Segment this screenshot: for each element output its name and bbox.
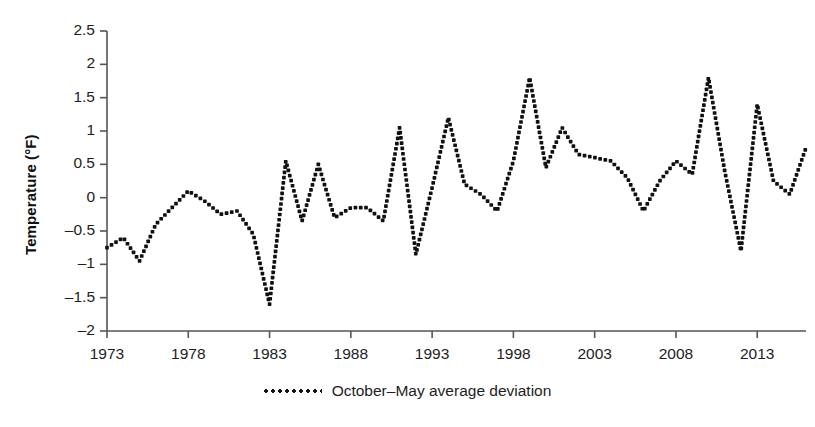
series-dot (185, 190, 189, 194)
series-dot (730, 205, 734, 209)
series-dot (105, 246, 109, 250)
y-tick-label: 2 (35, 54, 95, 72)
data-series-group (105, 77, 807, 306)
series-dot (215, 210, 219, 214)
series-dot (433, 176, 437, 180)
series-dot (458, 164, 462, 168)
series-dot (759, 121, 763, 125)
series-dot (692, 161, 696, 165)
series-dot (511, 162, 515, 166)
series-dot (721, 158, 725, 162)
y-tick-label: 1 (35, 121, 95, 139)
series-dot (435, 166, 439, 170)
series-dot (199, 197, 203, 201)
series-dot (514, 146, 518, 150)
series-dot (396, 136, 400, 140)
series-dot (523, 99, 527, 103)
series-dot (779, 185, 783, 189)
series-dot (308, 193, 312, 197)
series-dot (148, 235, 152, 239)
series-dot (795, 173, 799, 177)
series-dot (306, 198, 310, 202)
series-dot (656, 183, 660, 187)
x-tick-label: 2008 (636, 345, 716, 363)
series-dot (211, 206, 215, 210)
series-dot (703, 98, 707, 102)
x-axis-ticks (107, 331, 757, 338)
series-dot (453, 143, 457, 147)
series-dot (745, 199, 749, 203)
series-dot (532, 99, 536, 103)
series-dot (405, 183, 409, 187)
series-dot (311, 183, 315, 187)
series-dot (516, 136, 520, 140)
series-dot (735, 231, 739, 235)
series-dot (507, 172, 511, 176)
series-dot (546, 160, 550, 164)
series-dot (402, 162, 406, 166)
series-dot (381, 219, 385, 223)
series-dot (276, 234, 280, 238)
series-dot (746, 183, 750, 187)
series-dot (672, 162, 676, 166)
series-dot (436, 160, 440, 164)
series-dot (257, 256, 261, 260)
series-dot (314, 173, 318, 177)
y-tick-label: –1.5 (35, 288, 95, 306)
series-dot (563, 131, 567, 135)
series-dot (305, 203, 309, 207)
series-dot (517, 131, 521, 135)
y-tick-label: 2.5 (35, 21, 95, 39)
series-dot (771, 178, 775, 182)
series-dot (694, 150, 698, 154)
series-dot (513, 151, 517, 155)
series-dot (460, 169, 464, 173)
series-dot (631, 188, 635, 192)
series-dot (486, 199, 490, 203)
series-dot (416, 243, 420, 247)
legend-label: October–May average deviation (332, 382, 552, 400)
series-dot (302, 213, 306, 217)
series-dot (539, 136, 543, 140)
series-dot (318, 167, 322, 171)
series-dot (556, 135, 560, 139)
series-dot (770, 173, 774, 177)
series-dot (533, 104, 537, 108)
series-dot (747, 178, 751, 182)
series-dot (256, 251, 260, 255)
series-dot (230, 210, 234, 214)
series-dot (515, 141, 519, 145)
series-dot (390, 168, 394, 172)
series-dot (259, 267, 263, 271)
series-dot (501, 192, 505, 196)
series-dot (482, 196, 486, 200)
series-dot (704, 93, 708, 97)
series-dot (271, 271, 275, 275)
series-dot (129, 246, 133, 250)
series-dot (146, 240, 150, 244)
series-dot (153, 225, 157, 229)
series-dot (451, 133, 455, 137)
series-dot (763, 137, 767, 141)
series-dot (716, 132, 720, 136)
series-dot (638, 202, 642, 206)
series-dot (717, 137, 721, 141)
series-dot (440, 145, 444, 149)
series-dot (548, 155, 552, 159)
chart-container: Temperature (°F) 2.521.510.50–0.5–1–1.5–… (0, 0, 815, 427)
series-dot (386, 194, 390, 198)
series-dot (265, 292, 269, 296)
series-dot (419, 233, 423, 237)
series-dot (387, 189, 391, 193)
series-dot (743, 215, 747, 219)
series-dot (283, 171, 287, 175)
series-dot (530, 89, 534, 93)
series-dot (253, 241, 257, 245)
series-dot (739, 247, 743, 251)
series-dot (309, 188, 313, 192)
series-dot (238, 213, 242, 217)
series-dot (465, 184, 469, 188)
series-dot (537, 125, 541, 129)
series-dot (392, 157, 396, 161)
series-dot (393, 152, 397, 156)
